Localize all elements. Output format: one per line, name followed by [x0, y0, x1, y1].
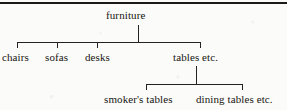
bracket-tick-tables-etc: [200, 42, 201, 48]
tree-diagram-figure: furniture chairs sofas desks tables etc.…: [0, 0, 287, 110]
node-sofas: sofas: [45, 51, 68, 63]
bracket-tick-dining-tables-etc: [242, 84, 243, 90]
connector-root-stem: [138, 25, 139, 42]
bracket-level1-spine: [17, 42, 201, 43]
node-dining-tables-etc: dining tables etc.: [196, 93, 273, 105]
bracket-tick-smokers-tables: [146, 84, 147, 90]
node-tables-etc: tables etc.: [173, 51, 218, 63]
node-chairs: chairs: [2, 51, 29, 63]
node-root-furniture: furniture: [106, 9, 145, 21]
bracket-tick-desks: [97, 42, 98, 48]
bracket-tick-chairs: [17, 42, 18, 48]
bracket-level2-spine: [146, 84, 243, 85]
node-smokers-tables: smoker's tables: [104, 93, 173, 105]
bracket-tick-sofas: [57, 42, 58, 48]
node-desks: desks: [85, 51, 110, 63]
top-horizontal-rule: [0, 2, 287, 4]
connector-tables-stem: [196, 66, 197, 84]
